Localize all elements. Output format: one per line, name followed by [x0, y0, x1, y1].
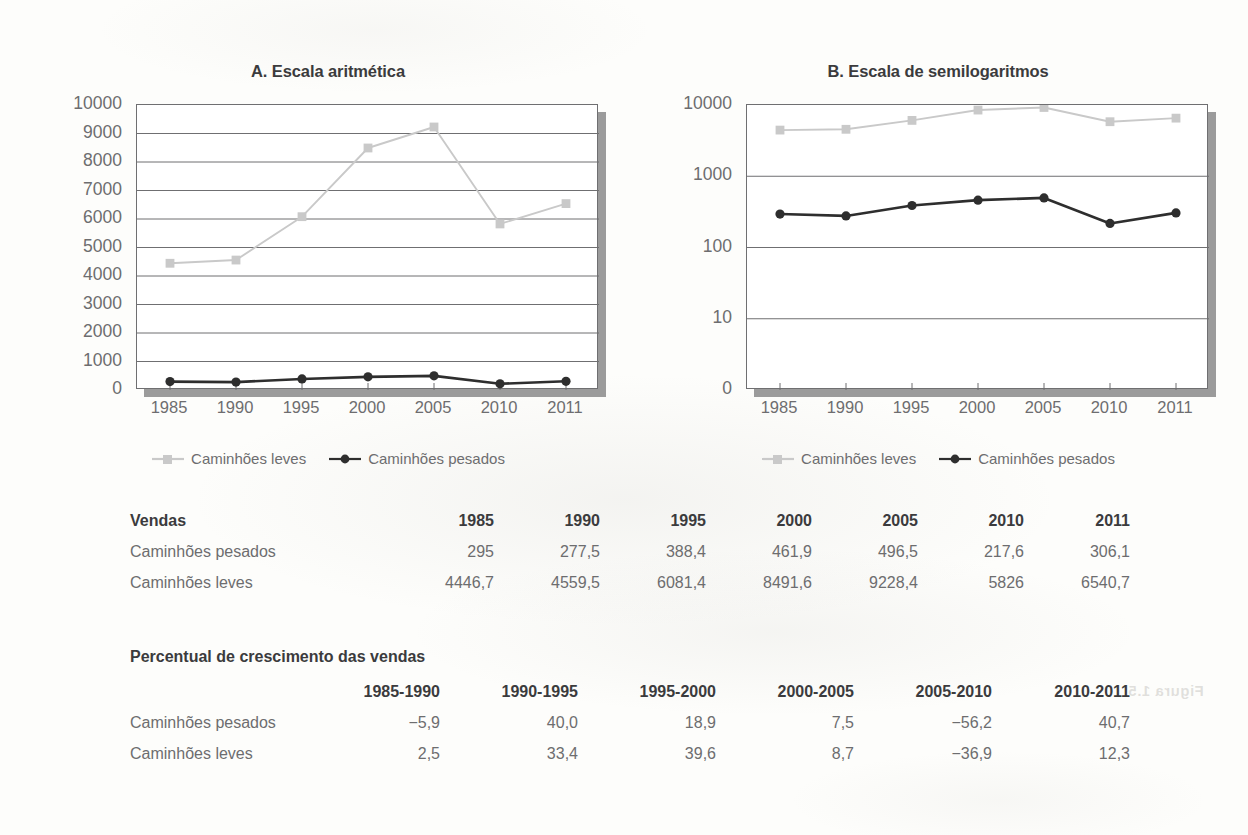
x-tick-label: 2011 [1157, 398, 1192, 417]
cell-value: 496,5 [812, 536, 918, 567]
chart-semilog-scale: B. Escala de semilogaritmos 100001000100… [628, 0, 1248, 490]
x-tick-label: 2005 [415, 398, 452, 417]
chart-a-y-axis-labels: 1000090008000700060005000400030002000100… [18, 104, 130, 389]
y-tick-label: 2000 [83, 321, 122, 342]
table-row: Caminhões pesados295277,5388,4461,9496,5… [130, 536, 1130, 567]
chart-b-plot [746, 104, 1208, 389]
cell-value: 9228,4 [812, 567, 918, 598]
y-tick-label: 7000 [83, 179, 122, 200]
growth-col-header: 1985-1990 [302, 676, 440, 707]
chart-b-legend: Caminhões levesCaminhões pesados [628, 450, 1248, 467]
growth-table-title: Percentual de crescimento das vendas [130, 648, 425, 666]
growth-table: 1985-19901990-19951995-20002000-20052005… [130, 676, 1130, 769]
cell-value: 39,6 [578, 738, 716, 769]
growth-table-body: 1985-19901990-19951995-20002000-20052005… [130, 676, 1130, 769]
cell-value: −56,2 [854, 707, 992, 738]
y-tick-label: 1000 [693, 164, 732, 185]
x-tick-label: 1985 [151, 398, 188, 417]
sales-table-head: Vendas 1985199019952000200520102011 [130, 505, 1130, 536]
growth-col-header: 2005-2010 [854, 676, 992, 707]
cell-value: 18,9 [578, 707, 716, 738]
x-tick-label: 1985 [761, 398, 798, 417]
y-tick-label: 0 [112, 378, 122, 399]
x-tick-label: 1990 [827, 398, 864, 417]
legend-item-heavy-trucks: Caminhões pesados [938, 450, 1115, 467]
row-label: Caminhões leves [130, 738, 302, 769]
legend-label: Caminhões pesados [978, 450, 1115, 467]
gridlines [137, 134, 599, 362]
legend-swatch-circle-icon [938, 452, 972, 466]
cell-value: 461,9 [706, 536, 812, 567]
y-tick-label: 1000 [83, 350, 122, 371]
cell-value: 2,5 [302, 738, 440, 769]
cell-value: 12,3 [992, 738, 1130, 769]
cell-value: 40,0 [440, 707, 578, 738]
sales-col-header: 1990 [494, 505, 600, 536]
y-tick-label: 10 [713, 307, 732, 328]
x-tick-label: 1990 [217, 398, 254, 417]
legend-label: Caminhões leves [191, 450, 306, 467]
legend-swatch-circle-icon [328, 452, 362, 466]
growth-header-spacer [130, 676, 302, 707]
chart-a-legend: Caminhões levesCaminhões pesados [18, 450, 638, 467]
chart-a-x-axis-labels: 1985199019952000200520102011 [136, 398, 598, 426]
cell-value: 33,4 [440, 738, 578, 769]
sales-table: Vendas 1985199019952000200520102011 Cami… [130, 505, 1130, 598]
row-label: Caminhões pesados [130, 536, 388, 567]
legend-item-heavy-trucks: Caminhões pesados [328, 450, 505, 467]
y-tick-label: 100 [703, 236, 732, 257]
cell-value: 277,5 [494, 536, 600, 567]
cell-value: 388,4 [600, 536, 706, 567]
x-tick-marks [780, 383, 1176, 390]
legend-item-light-trucks: Caminhões leves [761, 450, 916, 467]
cell-value: 40,7 [992, 707, 1130, 738]
sales-col-header: 2005 [812, 505, 918, 536]
chart-b-plot-area [746, 104, 1208, 389]
chart-b-y-axis-labels: 100001000100100 [628, 104, 740, 389]
chart-a-plot-area [136, 104, 598, 389]
growth-col-header: 1990-1995 [440, 676, 578, 707]
sales-col-header: 1985 [388, 505, 494, 536]
cell-value: 4559,5 [494, 567, 600, 598]
sales-col-header: 2011 [1024, 505, 1130, 536]
legend-swatch-square-icon [761, 452, 795, 466]
chart-b-title: B. Escala de semilogaritmos [628, 62, 1248, 81]
y-tick-label: 10000 [683, 93, 732, 114]
y-tick-label: 8000 [83, 150, 122, 171]
cell-value: 6081,4 [600, 567, 706, 598]
sales-col-header: 2000 [706, 505, 812, 536]
x-tick-label: 2000 [959, 398, 996, 417]
cell-value: −5,9 [302, 707, 440, 738]
row-label: Caminhões pesados [130, 707, 302, 738]
cell-value: 4446,7 [388, 567, 494, 598]
table-row: Caminhões leves4446,74559,56081,48491,69… [130, 567, 1130, 598]
cell-value: 6540,7 [1024, 567, 1130, 598]
x-tick-label: 2011 [547, 398, 582, 417]
sales-col-header: 1995 [600, 505, 706, 536]
y-tick-label: 0 [722, 378, 732, 399]
growth-col-header: 1995-2000 [578, 676, 716, 707]
table-row: Caminhões pesados−5,940,018,97,5−56,240,… [130, 707, 1130, 738]
cell-value: 217,6 [918, 536, 1024, 567]
x-tick-label: 2010 [1091, 398, 1128, 417]
cell-value: 7,5 [716, 707, 854, 738]
chart-b-x-axis-labels: 1985199019952000200520102011 [746, 398, 1208, 426]
x-tick-label: 2005 [1025, 398, 1062, 417]
y-tick-label: 10000 [73, 93, 122, 114]
chart-arithmetic-scale: A. Escala aritmética 1000090008000700060… [18, 0, 638, 490]
sales-table-body: Caminhões pesados295277,5388,4461,9496,5… [130, 536, 1130, 598]
y-tick-label: 5000 [83, 236, 122, 257]
growth-col-header: 2010-2011 [992, 676, 1130, 707]
y-tick-label: 3000 [83, 293, 122, 314]
cell-value: 8491,6 [706, 567, 812, 598]
legend-label: Caminhões leves [801, 450, 916, 467]
y-tick-label: 6000 [83, 207, 122, 228]
cell-value: 5826 [918, 567, 1024, 598]
charts-container: A. Escala aritmética 1000090008000700060… [0, 0, 1248, 490]
growth-col-header: 2000-2005 [716, 676, 854, 707]
cell-value: 295 [388, 536, 494, 567]
x-tick-label: 2010 [481, 398, 518, 417]
x-tick-label: 1995 [893, 398, 930, 417]
sales-table-title: Vendas [130, 505, 388, 536]
sales-table-header-row: Vendas 1985199019952000200520102011 [130, 505, 1130, 536]
